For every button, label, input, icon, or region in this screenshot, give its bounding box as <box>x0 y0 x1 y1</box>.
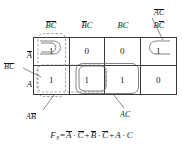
cell-value: 1 <box>85 76 90 85</box>
kmap-cell-r1c2: 1 <box>105 66 141 94</box>
annotation-a-not-c-not: AC <box>154 8 164 17</box>
annotation-a-c: AC <box>120 110 130 119</box>
kmap-cell-r0c1: 0 <box>70 38 106 65</box>
kmap-cell-r1c0: 1 <box>34 66 70 94</box>
kmap-cell-r0c2: 0 <box>105 38 141 65</box>
formula-term0-b: C <box>78 130 84 140</box>
column-header-1: BC <box>69 20 105 34</box>
cell-value: 0 <box>156 76 161 85</box>
annotation-b-not-c-not: BC <box>4 62 14 71</box>
formula-term1-b: C <box>102 130 108 140</box>
column-header-2: BC <box>105 20 141 34</box>
kmap-row: 1 0 0 1 <box>34 38 176 66</box>
formula-term2-a: A <box>115 131 121 140</box>
annotation-a-b-not: AB <box>26 112 36 121</box>
kmap-cell-r1c1: 1 <box>70 66 106 94</box>
formula-term0-a: A <box>66 130 72 140</box>
cell-value: 1 <box>120 76 125 85</box>
column-header-0: BC <box>33 20 69 34</box>
kmap-column-headers: BC BC BC BC <box>33 20 177 34</box>
column-header-3: BC <box>141 20 177 34</box>
cell-value: 1 <box>156 47 161 56</box>
kmap-cell-r1c3: 0 <box>141 66 177 94</box>
formula-equals: = <box>59 130 66 140</box>
cell-value: 1 <box>49 76 54 85</box>
leader-line-a-b-not <box>43 95 54 110</box>
cell-value: 0 <box>120 47 125 56</box>
formula-plus-0: + <box>84 130 91 140</box>
formula-term1-a: B <box>91 130 97 140</box>
kmap-grid: 1 0 0 1 1 1 1 0 <box>33 37 177 95</box>
row-label-a: A <box>18 79 32 89</box>
kmap-cell-r0c3: 1 <box>141 38 177 65</box>
karnaugh-map-figure: BC BC BC BC A A 1 0 0 1 1 1 <box>0 0 183 150</box>
cell-value: 0 <box>85 47 90 56</box>
formula-term2-b: C <box>127 131 133 140</box>
kmap-cell-r0c0: 1 <box>34 38 70 65</box>
boolean-expression: F3=A·C+B·C+A·C <box>0 130 183 141</box>
kmap-row: 1 1 1 0 <box>34 66 176 94</box>
cell-value: 1 <box>49 47 54 56</box>
row-label-a-not: A <box>18 50 32 60</box>
leader-line-a-c <box>113 94 124 108</box>
